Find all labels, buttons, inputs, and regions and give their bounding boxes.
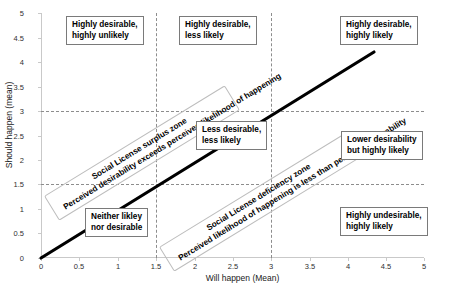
x-tick-label-4: 4	[346, 262, 350, 271]
annotation-line-1: Lower desirability	[347, 135, 417, 144]
y-tick-mark	[38, 184, 41, 185]
y-tick-mark	[38, 38, 41, 39]
y-tick-mark	[38, 160, 41, 161]
x-tick-mark	[386, 258, 387, 261]
annotation-line-1: Highly desirable,	[72, 20, 138, 29]
y-tick-label-4-5: 4.5	[14, 34, 24, 43]
x-tick-label-4-5: 4.5	[381, 262, 391, 271]
x-tick-label-2: 2	[193, 262, 197, 271]
x-tick-mark	[233, 258, 234, 261]
y-tick-label-2-5: 2.5	[14, 132, 24, 141]
annotation-neither-likely-nor-desirable: Neither likley nor desirable	[85, 208, 148, 237]
x-tick-mark	[156, 258, 157, 261]
x-tick-mark	[424, 258, 425, 261]
annotation-line-1: Highly desirable,	[185, 20, 251, 29]
y-tick-label-0: 0	[20, 254, 24, 263]
y-tick-mark	[38, 209, 41, 210]
annotation-line-1: Highly undesirable,	[346, 211, 422, 220]
x-tick-label-0-5: 0.5	[74, 262, 84, 271]
x-tick-label-3-5: 3.5	[305, 262, 315, 271]
y-tick-label-0-5: 0.5	[14, 229, 24, 238]
annotation-line-2: highly unlikely	[72, 31, 129, 40]
x-tick-mark	[348, 258, 349, 261]
annotation-line-2: highly likely	[346, 222, 393, 231]
y-tick-label-1: 1	[20, 205, 24, 214]
y-tick-label-2: 2	[20, 156, 24, 165]
x-tick-mark	[118, 258, 119, 261]
y-tick-mark	[38, 136, 41, 137]
y-axis-title: Should happen (mean)	[4, 65, 14, 185]
annotation-line-2: but highly likely	[347, 146, 409, 155]
y-tick-mark	[38, 258, 41, 259]
annotation-line-2: less likely	[202, 136, 241, 145]
x-tick-label-1: 1	[116, 262, 120, 271]
x-tick-label-2-5: 2.5	[228, 262, 238, 271]
y-tick-label-4: 4	[20, 58, 24, 67]
x-tick-mark	[271, 258, 272, 261]
social-license-quadrant-chart: 0 0.5 1 1.5 2 2.5 3 3.5 4 4.5 5 0 0.5 1 …	[0, 0, 451, 292]
x-tick-label-5: 5	[422, 262, 426, 271]
y-tick-label-3: 3	[20, 107, 24, 116]
y-tick-mark	[38, 87, 41, 88]
annotation-highly-desirable-highly-unlikely: Highly desirable, highly unlikely	[66, 16, 144, 45]
annotation-lower-desirability-but-highly-likely: Lower desirability but highly likely	[341, 131, 423, 160]
y-tick-mark	[38, 13, 41, 14]
x-tick-label-3: 3	[269, 262, 273, 271]
y-tick-label-5: 5	[20, 9, 24, 18]
x-tick-mark	[310, 258, 311, 261]
y-tick-label-3-5: 3.5	[14, 83, 24, 92]
y-tick-label-1-5: 1.5	[14, 180, 24, 189]
annotation-line-2: less likely	[185, 31, 224, 40]
x-tick-label-0: 0	[39, 262, 43, 271]
gridline-vertical-3	[271, 13, 272, 258]
x-tick-label-1-5: 1.5	[151, 262, 161, 271]
annotation-line-1: Neither likley	[91, 212, 142, 221]
y-tick-mark	[38, 111, 41, 112]
y-tick-mark	[38, 62, 41, 63]
annotation-highly-undesirable-highly-likely: Highly undesirable, highly likely	[340, 207, 428, 236]
annotation-line-1: Highly desirable,	[346, 20, 412, 29]
annotation-highly-desirable-highly-likely: Highly desirable, highly likely	[340, 16, 418, 45]
annotation-line-2: highly likely	[346, 31, 393, 40]
y-tick-mark	[38, 233, 41, 234]
x-axis-title: Will happen (Mean)	[0, 273, 451, 283]
annotation-less-desirable-less-likely: Less desirable, less likely	[196, 121, 267, 150]
annotation-line-2: nor desirable	[91, 223, 142, 232]
annotation-line-1: Less desirable,	[202, 125, 261, 134]
x-tick-mark	[41, 258, 42, 261]
annotation-highly-desirable-less-likely: Highly desirable, less likely	[179, 16, 257, 45]
x-tick-mark	[79, 258, 80, 261]
